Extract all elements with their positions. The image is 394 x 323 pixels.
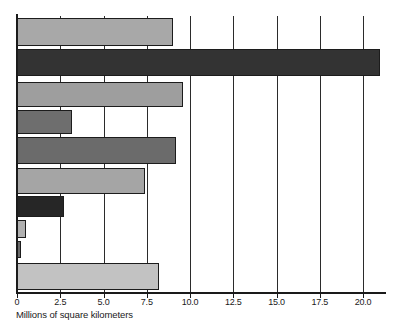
bar-2 (17, 49, 380, 76)
bar-7 (17, 196, 64, 217)
bar-6 (17, 168, 145, 194)
x-tick-label-0: 0 (15, 297, 20, 307)
bar-5 (17, 137, 176, 164)
x-tick-label-5.0: 5.0 (98, 297, 110, 307)
bar-10 (17, 263, 159, 290)
bar-9 (17, 241, 21, 258)
x-tick-label-15.0: 15.0 (268, 297, 285, 307)
x-tick-label-17.5: 17.5 (311, 297, 328, 307)
x-tick-label-2.5: 2.5 (54, 297, 66, 307)
x-tick-label-10.0: 10.0 (182, 297, 199, 307)
x-tick-label-20.0: 20.0 (355, 297, 372, 307)
bar-4 (17, 110, 72, 134)
bar-3 (17, 82, 183, 107)
x-axis-title: Millions of square kilometers (16, 309, 133, 320)
x-tick-label-7.5: 7.5 (141, 297, 153, 307)
x-tick-label-12.5: 12.5 (225, 297, 242, 307)
bar-chart: 02.55.07.510.012.515.017.520.0 Millions … (0, 0, 394, 323)
x-axis-line (17, 292, 386, 294)
bar-1 (17, 18, 173, 46)
bar-8 (17, 220, 26, 238)
